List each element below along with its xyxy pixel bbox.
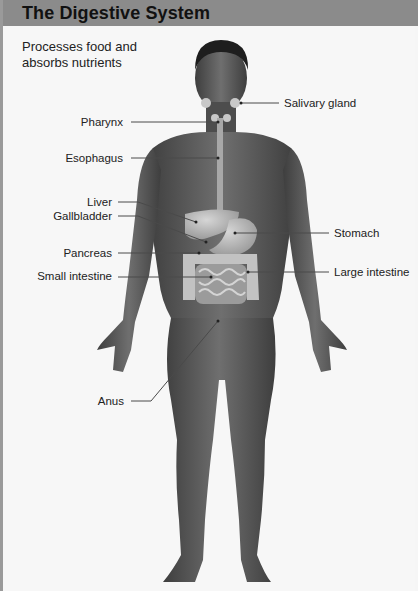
label-liver: Liver (87, 196, 112, 209)
label-small-intestine: Small intestine (37, 270, 112, 283)
label-anus: Anus (98, 395, 124, 408)
label-esophagus: Esophagus (65, 152, 123, 165)
human-body-figure (3, 0, 418, 591)
label-pharynx: Pharynx (81, 116, 123, 129)
label-salivary-gland: Salivary gland (284, 97, 356, 110)
label-gallbladder: Gallbladder (53, 210, 112, 223)
label-stomach: Stomach (334, 227, 379, 240)
label-pancreas: Pancreas (63, 247, 112, 260)
esophagus-shape (217, 118, 223, 218)
label-large-intestine: Large intestine (334, 266, 409, 279)
